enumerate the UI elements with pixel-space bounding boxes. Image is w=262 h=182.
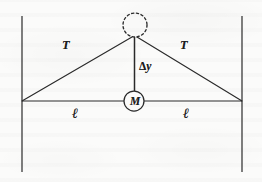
ghost-mass-dashed-circle [123, 13, 147, 37]
label-tension-right: T [180, 39, 188, 52]
tension-string-right [137, 37, 242, 101]
physics-diagram-figure: T T Δy ℓ ℓ M [0, 0, 262, 182]
label-length-right: ℓ [183, 106, 189, 120]
label-y-variable: y [146, 60, 151, 72]
label-displacement-delta-y: Δy [139, 61, 151, 73]
label-length-left: ℓ [72, 106, 78, 120]
tension-string-left [22, 37, 132, 101]
label-mass-M: M [130, 96, 140, 108]
label-tension-left: T [62, 39, 70, 52]
diagram-canvas [0, 0, 262, 182]
